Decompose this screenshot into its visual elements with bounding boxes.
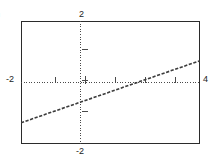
y-axis-bottom-tick-label: -2 (76, 146, 84, 156)
x-axis-left-tick-label: -2 (6, 74, 14, 84)
plot-area (21, 21, 200, 144)
data-series-line (21, 61, 200, 123)
y-axis-top-tick-label: 2 (79, 9, 84, 19)
plot-canvas (21, 21, 200, 144)
figure-container: ) 2 -2 (0, 0, 212, 165)
x-axis-right-tick-label: 4 (203, 74, 208, 84)
